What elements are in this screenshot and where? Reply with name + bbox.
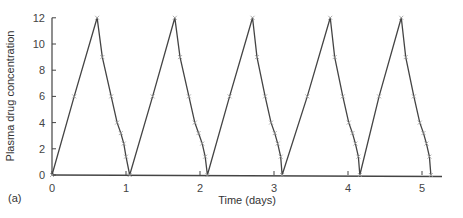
x-tick-label: 1 bbox=[123, 182, 129, 194]
y-axis-title: Plasma drug concentration bbox=[4, 31, 16, 162]
y-tick-label: 12 bbox=[33, 12, 45, 24]
pk-chart: 024681012 012345 Time (days) Plasma drug… bbox=[0, 0, 463, 218]
x-tick-label: 0 bbox=[49, 182, 55, 194]
x-tick-label: 3 bbox=[271, 182, 277, 194]
x-axis: 012345 bbox=[49, 171, 442, 194]
x-tick-label: 2 bbox=[197, 182, 203, 194]
y-tick-label: 4 bbox=[39, 117, 45, 129]
concentration-series bbox=[50, 16, 433, 177]
y-tick-label: 8 bbox=[39, 64, 45, 76]
x-tick-label: 4 bbox=[345, 182, 351, 194]
panel-label: (a) bbox=[8, 192, 21, 204]
y-tick-label: 0 bbox=[39, 169, 45, 181]
series-line bbox=[52, 18, 431, 175]
y-tick-label: 6 bbox=[39, 90, 45, 102]
x-axis-title: Time (days) bbox=[218, 194, 276, 206]
y-axis: 024681012 bbox=[33, 12, 56, 181]
y-tick-label: 10 bbox=[33, 38, 45, 50]
y-tick-label: 2 bbox=[39, 143, 45, 155]
x-tick-label: 5 bbox=[419, 182, 425, 194]
